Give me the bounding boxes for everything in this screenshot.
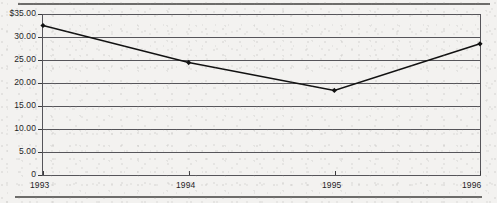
- y-tick-10: [38, 129, 42, 130]
- y-tick-20: [38, 83, 42, 84]
- x-axis-label-1994: 1994: [176, 180, 195, 190]
- x-axis-label-1995: 1995: [322, 180, 341, 190]
- y-axis-label-15: 15.00: [0, 101, 36, 110]
- y-tick-15: [38, 106, 42, 107]
- chart-page: $35.00 30.00 25.00 20.00 15.00 10.00 5.0…: [0, 0, 497, 203]
- y-axis-label-5: 5.00: [0, 147, 36, 156]
- y-tick-5: [38, 152, 42, 153]
- data-point-1996: [477, 41, 482, 46]
- y-axis-label-30: 30.00: [0, 32, 36, 41]
- y-tick-35: [38, 14, 42, 15]
- y-axis-label-10: 10.00: [0, 124, 36, 133]
- data-point-1995: [332, 88, 337, 93]
- x-axis-label-1993: 1993: [30, 180, 49, 190]
- y-axis-label-35: $35.00: [0, 9, 36, 18]
- y-axis-label-20: 20.00: [0, 78, 36, 87]
- series-line: [43, 15, 482, 177]
- series-polyline: [43, 26, 480, 91]
- y-axis-label-0: 0: [0, 170, 36, 179]
- y-tick-30: [38, 37, 42, 38]
- data-point-1994: [186, 60, 191, 65]
- line-chart: $35.00 30.00 25.00 20.00 15.00 10.00 5.0…: [0, 0, 497, 203]
- y-tick-0: [38, 175, 42, 176]
- plot-area: [42, 14, 481, 176]
- series-markers: [40, 23, 482, 93]
- x-axis-label-1996: 1996: [462, 180, 481, 190]
- y-axis-label-25: 25.00: [0, 55, 36, 64]
- y-tick-25: [38, 60, 42, 61]
- data-point-1993: [40, 23, 45, 28]
